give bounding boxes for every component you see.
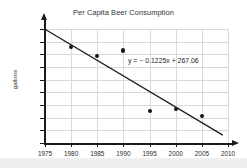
y-axis-tick <box>40 92 45 93</box>
x-axis-tick <box>45 143 46 147</box>
x-axis-tick <box>71 143 72 147</box>
chart-figure: Per Capita Beer Consumption y = − <box>0 0 247 168</box>
x-axis-tick-label: 2010 <box>213 150 243 157</box>
y-axis-tick <box>40 105 45 106</box>
regression-equation-text: y = − 0.1225x + 267.06 <box>128 57 199 64</box>
y-axis-tick <box>40 67 45 68</box>
y-axis-label: gallons <box>11 58 18 102</box>
x-axis-tick <box>202 143 203 147</box>
x-axis-tick <box>123 143 124 147</box>
x-axis-tick <box>97 143 98 147</box>
x-axis-tick <box>228 143 229 147</box>
y-axis-arrow <box>41 13 47 20</box>
x-axis-tick <box>176 143 177 147</box>
y-axis-tick <box>40 29 45 30</box>
x-axis-line <box>44 143 234 145</box>
y-axis-tick <box>40 42 45 43</box>
y-axis-tick <box>40 80 45 81</box>
y-axis-tick <box>40 130 45 131</box>
x-axis-arrow <box>232 140 239 146</box>
x-axis-tick <box>150 143 151 147</box>
regression-equation-label: y = − 0.1225x + 267.06 <box>128 57 199 64</box>
y-axis-tick <box>40 54 45 55</box>
y-axis-tick <box>40 118 45 119</box>
